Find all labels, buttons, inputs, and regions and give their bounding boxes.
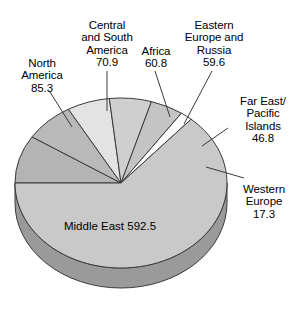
label-middle-east-value: 592.5 xyxy=(127,220,156,232)
label-far-east-pacific-name: Far East/ Pacific Islands xyxy=(240,95,286,132)
pie-chart-figure: North America 85.3 Central and South Ame… xyxy=(0,0,301,315)
label-central-south-america-name: Central and South America xyxy=(81,19,133,56)
label-far-east-pacific: Far East/ Pacific Islands 46.8 xyxy=(228,82,298,158)
label-eastern-europe-russia-name: Eastern Europe and Russia xyxy=(185,19,243,56)
label-far-east-pacific-value: 46.8 xyxy=(228,132,298,145)
label-western-europe: Western Europe 17.3 xyxy=(230,170,298,233)
label-north-america-name: North America xyxy=(21,57,62,82)
label-western-europe-name: Western Europe xyxy=(243,183,285,208)
label-north-america-value: 85.3 xyxy=(4,82,80,95)
label-western-europe-value: 17.3 xyxy=(230,208,298,221)
label-middle-east-name: Middle East xyxy=(64,220,124,232)
label-middle-east: Middle East 592.5 xyxy=(58,220,162,233)
label-africa-name: Africa xyxy=(142,45,171,57)
pie-slices-group xyxy=(15,98,227,268)
label-eastern-europe-russia-value: 59.6 xyxy=(173,56,255,69)
label-eastern-europe-russia: Eastern Europe and Russia 59.6 xyxy=(173,6,255,82)
